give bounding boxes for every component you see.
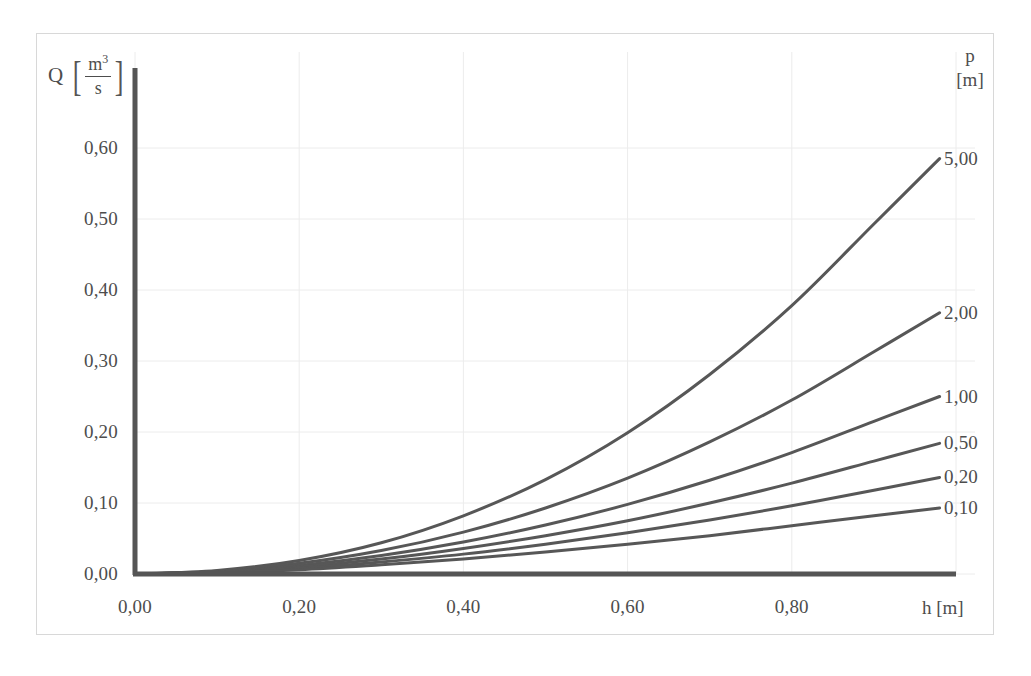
x-axis-tick-label: 0,20	[264, 597, 334, 616]
legend-unit: [m]	[944, 68, 996, 92]
legend-header: p [m]	[944, 44, 996, 92]
legend-label-p-0-50: 0,50	[944, 433, 1014, 452]
legend-label-p-2-00: 2,00	[944, 303, 1014, 322]
unit-numerator: m3	[85, 52, 111, 76]
legend-label-p-5-00: 5,00	[944, 149, 1014, 168]
y-axis-tick-label: 0,20	[48, 422, 118, 441]
bracket-open: [	[73, 55, 82, 97]
y-axis-symbol: Q	[48, 63, 63, 88]
x-axis-title: h [m]	[922, 597, 964, 619]
y-axis-tick-label: 0,10	[48, 493, 118, 512]
y-axis-tick-label: 0,60	[48, 138, 118, 157]
legend-label-p-1-00: 1,00	[944, 387, 1014, 406]
x-axis-tick-label: 0,00	[100, 597, 170, 616]
legend-symbol: p	[944, 44, 996, 68]
y-axis-tick-label: 0,50	[48, 209, 118, 228]
unit-denominator: s	[92, 77, 105, 99]
x-axis-tick-label: 0,60	[593, 597, 663, 616]
y-axis-unit-fraction: m3 s	[85, 52, 111, 99]
y-axis-title: Q [ m3 s ]	[48, 52, 126, 99]
y-axis-tick-label: 0,30	[48, 351, 118, 370]
x-axis-tick-label: 0,80	[757, 597, 827, 616]
chart-plot	[0, 0, 1031, 676]
curve-p-0-10	[135, 508, 940, 574]
curve-p-0-50	[135, 443, 940, 574]
legend-label-p-0-20: 0,20	[944, 467, 1014, 486]
bracket-close: ]	[115, 55, 124, 97]
y-axis-tick-label: 0,00	[48, 564, 118, 583]
x-axis-tick-label: 0,40	[428, 597, 498, 616]
y-axis-tick-label: 0,40	[48, 280, 118, 299]
chart-curves	[135, 159, 940, 574]
legend-label-p-0-10: 0,10	[944, 498, 1014, 517]
